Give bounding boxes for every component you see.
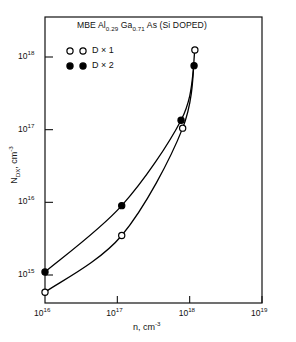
y-tick-label: 1016 [18, 196, 34, 206]
plot-canvas [0, 0, 296, 342]
y-tick-label: 1017 [18, 124, 34, 134]
data-point-marker [192, 47, 198, 53]
x-tick-label: 1016 [34, 308, 50, 318]
chart-figure: MBE Al0.29 Ga0.71 As (Si DOPED) NDX, cm-… [0, 0, 296, 342]
x-axis-ticks [117, 296, 262, 303]
data-point-marker [119, 203, 125, 209]
x-tick-label: 1018 [179, 308, 195, 318]
chart-title: MBE Al0.29 Ga0.71 As (Si DOPED) [77, 20, 207, 30]
data-point-marker [42, 269, 48, 275]
legend-marker-open [80, 48, 86, 54]
legend-label: D × 2 [92, 60, 114, 70]
y-axis-label: NDX, cm-3 [9, 135, 19, 195]
x-tick-label: 1019 [251, 308, 267, 318]
series-curve [45, 66, 194, 272]
legend-marker-open [67, 48, 73, 54]
data-series-layer [42, 47, 198, 295]
y-tick-label: 1015 [18, 269, 34, 279]
y-tick-label: 1018 [18, 51, 34, 61]
legend-markers [67, 48, 86, 69]
legend-label: D × 1 [92, 45, 114, 55]
data-point-marker [178, 117, 184, 123]
data-point-marker [191, 63, 197, 69]
data-point-marker [119, 232, 125, 238]
legend-marker-filled [67, 63, 73, 69]
y-axis-ticks [45, 57, 53, 275]
data-point-marker [42, 289, 48, 295]
legend-marker-filled [80, 63, 86, 69]
data-point-marker [180, 125, 186, 131]
axes-frame [45, 17, 262, 303]
series-curve [45, 50, 195, 292]
x-tick-label: 1017 [106, 308, 122, 318]
x-axis-label: n, cm-3 [133, 322, 161, 332]
